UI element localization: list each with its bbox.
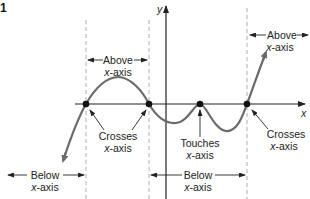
annotation-above-left: Above x-axis	[88, 54, 147, 78]
below-middle-label: Below	[184, 169, 213, 181]
y-axis-label: y	[156, 3, 163, 15]
crosses-right-sublabel: x-axis	[269, 140, 297, 152]
annotation-crosses-right: Crosses x-axis	[252, 110, 305, 152]
annotation-below-left: Below x-axis	[8, 169, 84, 193]
crosses-right-label: Crosses	[267, 128, 306, 140]
below-left-label: Below	[31, 169, 60, 181]
x-intercept-point-2	[146, 101, 153, 108]
crosses-left-sublabel: x-axis	[103, 142, 131, 154]
above-left-sublabel: x-axis	[103, 66, 131, 78]
annotation-above-right: Above x-axis	[250, 29, 308, 53]
x-intercept-point-4	[244, 101, 251, 108]
figure-number: 1	[0, 1, 7, 15]
below-left-sublabel: x-axis	[30, 181, 58, 193]
annotation-below-middle: Below x-axis	[151, 169, 245, 193]
annotation-crosses-left: Crosses x-axis	[90, 110, 146, 154]
below-middle-sublabel: x-axis	[183, 181, 211, 193]
polynomial-graph-diagram: 1 x y Above x-axis Above x-axis Crosses …	[0, 0, 310, 199]
x-intercept-point-1	[83, 101, 90, 108]
polynomial-curve	[64, 55, 265, 158]
touches-sublabel: x-axis	[185, 149, 213, 161]
curve-arrow-left	[63, 152, 66, 161]
curve-arrow-right	[263, 52, 266, 60]
above-right-sublabel: x-axis	[265, 41, 293, 53]
x-axis-label: x	[300, 107, 307, 119]
x-intercept-point-3	[197, 101, 204, 108]
touches-label: Touches	[180, 137, 219, 149]
crosses-left-label: Crosses	[99, 130, 138, 142]
above-right-label: Above	[267, 29, 297, 41]
above-left-label: Above	[103, 54, 133, 66]
